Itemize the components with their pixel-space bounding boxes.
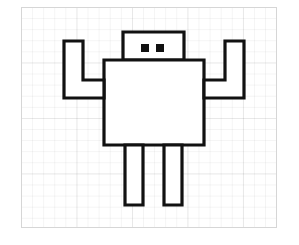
grid-major-lines xyxy=(22,8,276,227)
grid-minor-lines xyxy=(22,8,276,227)
graph-paper-sheet xyxy=(21,7,277,228)
drawing-canvas xyxy=(0,0,299,245)
